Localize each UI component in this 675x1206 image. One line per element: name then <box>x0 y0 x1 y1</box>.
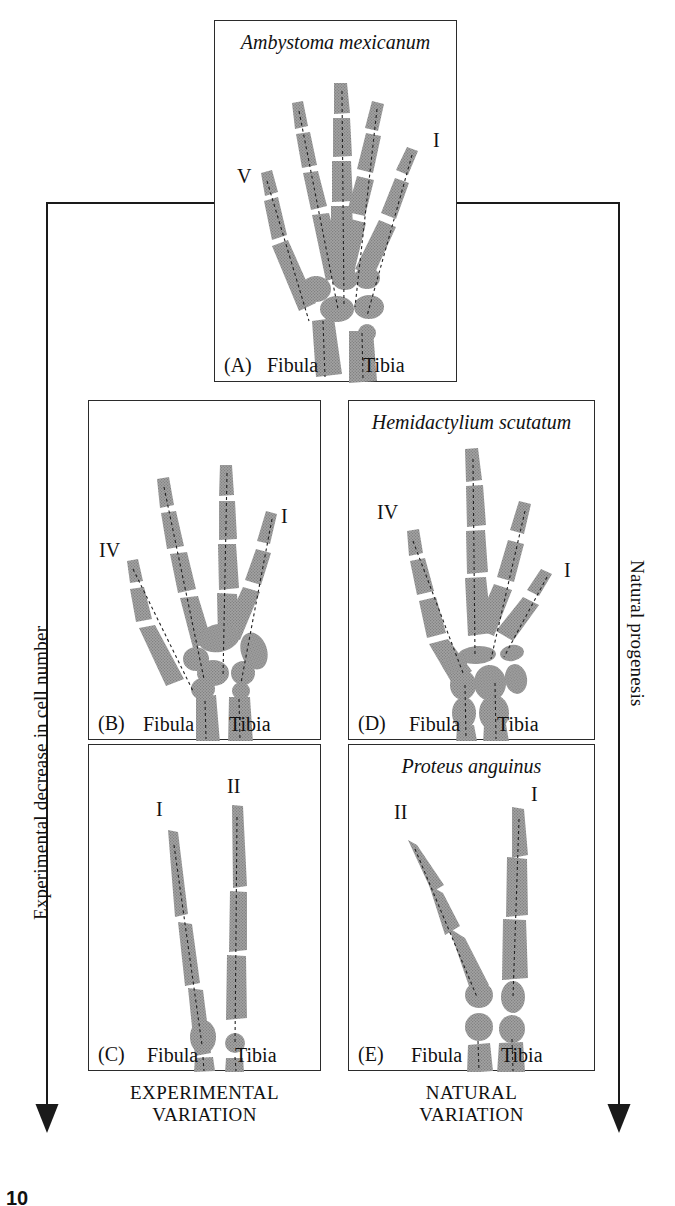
panel-c-tibia-label: Tibia <box>235 1044 277 1067</box>
panel-d-digit-label-i: I <box>564 559 571 582</box>
panel-a-tibia-label: Tibia <box>363 354 405 377</box>
panel-b-digit-label-i: I <box>281 505 288 528</box>
figure-root: Experimental decrease in cell number Nat… <box>0 0 675 1206</box>
panel-a-digit-label-v: V <box>237 165 251 188</box>
page-number: 10 <box>6 1187 28 1206</box>
panel-b-tibia-label: Tibia <box>229 713 271 736</box>
panel-e-label: (E) <box>358 1043 384 1066</box>
caption-experimental-variation: EXPERIMENTAL VARIATION <box>88 1082 321 1127</box>
panel-a-digit-label-i: I <box>433 129 440 152</box>
panel-c-limb-diagram <box>89 745 322 1072</box>
panel-a-fibula-label: Fibula <box>267 354 318 377</box>
panel-a-limb-diagram <box>215 21 458 383</box>
panel-d-label: (D) <box>358 712 386 735</box>
arrow-down-left-icon <box>34 1100 60 1134</box>
panel-e: Proteus anguinus <box>348 744 595 1071</box>
panel-a-label: (A) <box>224 354 252 377</box>
panel-b-digit-label-iv: IV <box>99 539 120 562</box>
panel-c: I II Fibula Tibia (C) <box>88 744 321 1071</box>
panel-b-fibula-label: Fibula <box>143 713 194 736</box>
panel-a: Ambystoma mexicanum <box>214 20 457 382</box>
panel-c-digit-label-i: I <box>156 798 163 821</box>
panel-e-tibia-label: Tibia <box>501 1044 543 1067</box>
right-axis-label: Natural progenesis <box>626 560 648 707</box>
panel-c-fibula-label: Fibula <box>147 1044 198 1067</box>
panel-e-fibula-label: Fibula <box>411 1044 462 1067</box>
caption-natural-variation: NATURAL VARIATION <box>348 1082 595 1127</box>
panel-d-limb-diagram <box>349 401 596 741</box>
bracket-right-vertical <box>618 202 620 1105</box>
panel-d-fibula-label: Fibula <box>409 713 460 736</box>
panel-e-digit-label-ii: II <box>394 801 407 824</box>
panel-b-limb-diagram <box>89 401 322 741</box>
arrow-down-right-icon <box>606 1100 632 1134</box>
panel-b-label: (B) <box>98 712 125 735</box>
panel-d: Hemidactylium scutatum <box>348 400 595 740</box>
left-axis-label: Experimental decrease in cell number <box>30 626 52 920</box>
panel-b: IV I Fibula Tibia (B) <box>88 400 321 740</box>
panel-e-digit-label-i: I <box>531 783 538 806</box>
panel-c-digit-label-ii: II <box>227 775 240 798</box>
panel-e-limb-diagram <box>349 745 596 1072</box>
panel-d-digit-label-iv: IV <box>377 501 398 524</box>
panel-d-tibia-label: Tibia <box>497 713 539 736</box>
panel-c-label: (C) <box>98 1043 125 1066</box>
